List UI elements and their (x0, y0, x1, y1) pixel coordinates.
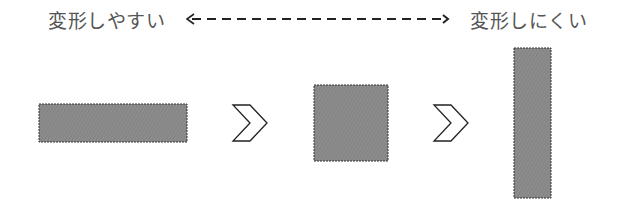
arrow-right-head-icon (443, 15, 448, 23)
double-arrow (187, 14, 448, 24)
deformation-diagram (0, 0, 619, 209)
tall-rectangle (514, 48, 551, 198)
chevron-right-icon (233, 105, 267, 141)
chevron-right-icon (434, 105, 468, 141)
square (314, 85, 388, 161)
wide-rectangle (39, 104, 187, 142)
